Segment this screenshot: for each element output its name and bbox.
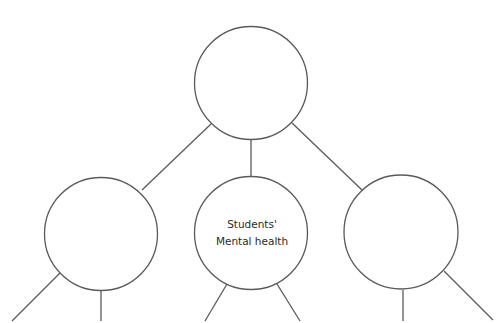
- node-left-circle: [45, 178, 158, 291]
- edge-center-branch-1: [205, 284, 227, 321]
- edge-left-branch-1: [12, 273, 60, 321]
- node-right: [344, 175, 458, 289]
- mind-map-diagram: Students' Mental health: [0, 0, 499, 323]
- edge-top-to-right: [292, 123, 362, 190]
- node-top: [195, 27, 308, 140]
- node-center: Students' Mental health: [195, 177, 308, 290]
- node-center-label-line-1: Students': [227, 218, 277, 230]
- node-left: [45, 178, 158, 291]
- node-top-circle: [195, 27, 308, 140]
- node-center-circle: [195, 177, 308, 290]
- edge-center-branch-2: [277, 284, 300, 321]
- edge-right-branch-2: [444, 271, 493, 320]
- edge-top-to-left: [142, 124, 211, 190]
- node-right-circle: [344, 175, 458, 289]
- node-center-label-line-2: Mental health: [216, 235, 288, 247]
